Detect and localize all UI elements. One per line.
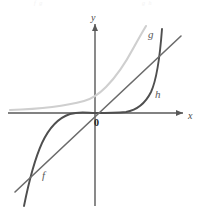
y-axis-label: y: [91, 12, 95, 23]
curve-label-g: g: [148, 28, 154, 40]
x-axis-label: x: [188, 110, 192, 121]
origin-label: 0: [94, 117, 99, 128]
coordinate-plot: [0, 0, 200, 216]
curve-f-line: [15, 36, 181, 192]
math-figure: f g g h y x 0 g h f: [0, 0, 200, 216]
x-axis-arrowhead: [176, 110, 183, 116]
curve-g-path: [10, 26, 146, 110]
curve-label-f: f: [42, 169, 45, 181]
y-axis-arrowhead: [92, 24, 98, 31]
curve-label-h: h: [155, 88, 161, 100]
